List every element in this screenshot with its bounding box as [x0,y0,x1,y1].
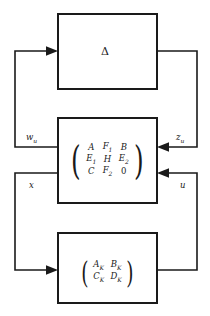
plant-matrix: ( A F1 B E1 H E2 C F2 0 ) [58,137,157,183]
matrix-cell-b: B [116,142,132,154]
matrix-cell-c: C [83,166,99,178]
signal-wire-u [157,173,197,270]
matrix-left-paren: ( [81,255,88,290]
matrix-cell-e2: E2 [116,154,132,166]
matrix-cell-a: A [83,142,99,154]
matrix-right-paren: ) [134,137,144,183]
matrix-cell-ak: AK [90,260,107,272]
matrix-right-paren: ) [126,255,133,290]
table-row: CK DK [90,272,125,284]
arrowhead-x [46,265,58,275]
signal-label-x: x [29,181,34,192]
arrowhead-u [157,168,169,178]
signal-label-u: u [180,181,185,192]
signal-label-wu: wu [26,133,37,144]
matrix-cell-bk: BK [107,260,125,272]
signal-path-wu [15,46,58,147]
matrix-cell-dk: DK [107,272,125,284]
table-row: A F1 B [83,142,132,154]
table-row: AK BK [90,260,125,272]
matrix-cell-zero: 0 [116,166,132,178]
table-row: C F2 0 [83,166,132,178]
arrowhead-zu [157,142,169,152]
matrix-cell-f2: F2 [99,166,115,178]
matrix-left-paren: ( [71,137,81,183]
controller-matrix-table: AK BK CK DK [90,260,125,284]
matrix-cell-ck: CK [90,272,107,284]
signal-path-u [157,168,197,270]
uncertainty-block-label: Δ [101,45,109,58]
arrowhead-wu [46,46,58,56]
signal-wire-x [15,173,58,270]
matrix-cell-f1: F1 [99,142,115,154]
block-diagram: Δ ( A F1 B E1 H E2 C F2 0 ) ( [0,0,210,316]
plant-matrix-table: A F1 B E1 H E2 C F2 0 [83,142,132,179]
signal-path-x [15,173,58,275]
matrix-cell-e1: E1 [83,154,99,166]
matrix-cell-h: H [99,154,115,166]
controller-matrix: ( AK BK CK DK ) [58,256,157,288]
table-row: E1 H E2 [83,154,132,166]
signal-label-zu: zu [176,133,184,144]
